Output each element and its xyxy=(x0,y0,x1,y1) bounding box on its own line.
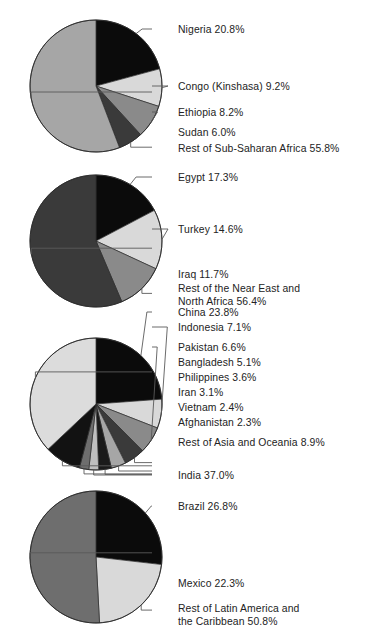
leader-line xyxy=(136,29,152,34)
pie-chart-3: China 23.8%Indonesia 7.1%Pakistan 6.6%Ba… xyxy=(30,307,325,481)
pie-label-line: China 23.8% xyxy=(178,307,239,318)
pie-label: Iraq 11.7% xyxy=(178,269,228,280)
pie-label: Afghanistan 2.3% xyxy=(178,417,261,428)
leader-line xyxy=(130,177,152,185)
pie-chart-2: Egypt 17.3%Turkey 14.6%Iraq 11.7%Rest of… xyxy=(30,172,300,307)
pie-label-line: India 37.0% xyxy=(178,470,234,481)
pie-slice xyxy=(96,338,162,404)
pie-chart-4: Brazil 26.8%Mexico 22.3%Rest of Latin Am… xyxy=(30,491,300,627)
pie-label: Congo (Kinshasa) 9.2% xyxy=(178,81,290,92)
leader-line xyxy=(141,605,152,610)
pie-label-line: Iraq 11.7% xyxy=(178,269,228,280)
pie-label-line: Mexico 22.3% xyxy=(178,578,244,589)
leader-line xyxy=(119,466,152,471)
pie-label: Philippines 3.6% xyxy=(178,372,256,383)
pie-label-line: Congo (Kinshasa) 9.2% xyxy=(178,81,290,92)
pie-label-line: Sudan 6.0% xyxy=(178,127,236,138)
pie-label: China 23.8% xyxy=(178,307,239,318)
pie-label-line: Rest of the Near East and xyxy=(178,283,300,294)
pie-label: Indonesia 7.1% xyxy=(178,322,251,333)
pie-slice xyxy=(30,491,100,623)
pie-label-line: Pakistan 6.6% xyxy=(178,342,246,353)
pie-label: Rest of Latin America andthe Caribbean 5… xyxy=(178,603,300,627)
pie-label: Rest of the Near East andNorth Africa 56… xyxy=(178,283,300,307)
pie-label: Egypt 17.3% xyxy=(178,172,238,183)
pie-label: Rest of Sub-Saharan Africa 55.8% xyxy=(178,143,339,154)
pie-label: Mexico 22.3% xyxy=(178,578,244,589)
pie-label-line: Vietnam 2.4% xyxy=(178,402,244,413)
pie-label-line: North Africa 56.4% xyxy=(178,296,266,307)
pie-label: Vietnam 2.4% xyxy=(178,402,244,413)
pie-label: Nigeria 20.8% xyxy=(178,24,245,35)
pie-label: Rest of Asia and Oceania 8.9% xyxy=(178,437,325,448)
pie-label-line: Afghanistan 2.3% xyxy=(178,417,261,428)
pie-label: Pakistan 6.6% xyxy=(178,342,246,353)
pie-label: Ethiopia 8.2% xyxy=(178,107,243,118)
leader-line xyxy=(145,506,152,513)
pie-label-line: Rest of Sub-Saharan Africa 55.8% xyxy=(178,143,339,154)
pie-label-line: the Caribbean 50.8% xyxy=(178,616,278,627)
pie-label-line: Bangladesh 5.1% xyxy=(178,357,261,368)
pie-label-line: Iran 3.1% xyxy=(178,387,223,398)
pie-label-line: Brazil 26.8% xyxy=(178,501,238,512)
pie-label-line: Egypt 17.3% xyxy=(178,172,238,183)
pie-label-line: Indonesia 7.1% xyxy=(178,322,251,333)
pie-slice xyxy=(96,557,162,623)
leader-line xyxy=(135,458,153,463)
leader-line xyxy=(142,288,152,293)
pie-label: Sudan 6.0% xyxy=(178,127,236,138)
leader-line xyxy=(131,142,152,147)
pie-label-line: Rest of Asia and Oceania 8.9% xyxy=(178,437,325,448)
leader-line xyxy=(141,312,152,356)
pie-slice xyxy=(96,491,162,565)
pie-label-line: Philippines 3.6% xyxy=(178,372,256,383)
pie-label: India 37.0% xyxy=(178,470,234,481)
pie-label-line: Turkey 14.6% xyxy=(178,224,243,235)
pie-label: Iran 3.1% xyxy=(178,387,223,398)
pie-label: Brazil 26.8% xyxy=(178,501,238,512)
pie-label-line: Nigeria 20.8% xyxy=(178,24,245,35)
pie-label: Turkey 14.6% xyxy=(178,224,243,235)
pie-label-line: Rest of Latin America and xyxy=(178,603,300,614)
pie-chart-1: Nigeria 20.8%Congo (Kinshasa) 9.2%Ethiop… xyxy=(30,20,339,154)
pie-label: Bangladesh 5.1% xyxy=(178,357,261,368)
pie-chart-figure: Nigeria 20.8%Congo (Kinshasa) 9.2%Ethiop… xyxy=(0,0,372,638)
pie-label-line: Ethiopia 8.2% xyxy=(178,107,243,118)
